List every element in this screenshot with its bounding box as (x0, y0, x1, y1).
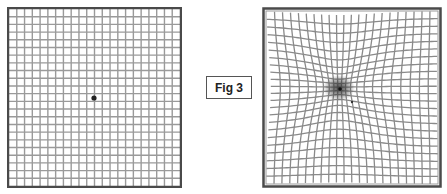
fixation-dot (338, 87, 342, 91)
normal-amsler-grid (7, 7, 182, 188)
fixation-dot (91, 95, 96, 100)
figure-label: Fig 3 (206, 76, 252, 99)
normal-grid-graphic (7, 7, 182, 188)
figure-label-text: Fig 3 (215, 81, 243, 95)
distorted-amsler-grid (262, 7, 442, 188)
speck (351, 101, 353, 103)
distorted-grid-graphic (262, 7, 442, 188)
warped-grid-lines (266, 11, 438, 184)
